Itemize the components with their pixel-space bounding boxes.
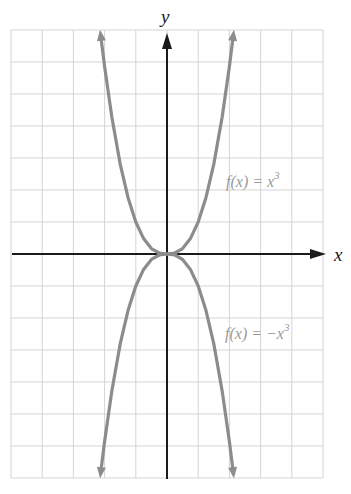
curve-labels: f(x) = x3 f(x) = −x3 [225,169,290,343]
y-axis-arrow-icon [162,33,172,49]
x-axis-label: x [333,244,343,265]
upper-curve-label: f(x) = x3 [226,169,280,191]
lower-curve-label-exponent: 3 [283,321,290,333]
y-axis-label: y [159,6,170,27]
lower-curve-label: f(x) = −x3 [225,321,290,343]
axes: x y [12,6,343,479]
x-axis-arrow-icon [310,249,326,259]
upper-curve-label-exponent: 3 [273,169,280,181]
function-graph: x y f(x) = x3 f(x) = −x3 [0,0,351,494]
